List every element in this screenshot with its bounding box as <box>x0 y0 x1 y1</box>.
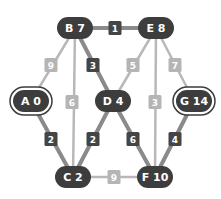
edge-weight-G-F: 4 <box>169 132 182 146</box>
edge-weight-E-D: 5 <box>127 58 140 72</box>
edge-weight-E-G: 7 <box>169 58 182 72</box>
edge-weight-D-F: 6 <box>127 132 140 146</box>
weight-label: 6 <box>130 135 136 145</box>
weight-label: 7 <box>172 61 178 71</box>
node-C[interactable]: C 2 <box>55 166 91 188</box>
node-label: G 14 <box>180 95 209 108</box>
node-label: A 0 <box>21 95 41 108</box>
edge-weight-C-F: 9 <box>108 170 121 184</box>
node-D[interactable]: D 4 <box>95 90 131 112</box>
node-G[interactable]: G 14 <box>173 87 215 115</box>
node-B[interactable]: B 7 <box>57 17 93 39</box>
node-A[interactable]: A 0 <box>10 87 52 115</box>
node-E[interactable]: E 8 <box>138 17 174 39</box>
weight-label: 6 <box>69 98 75 108</box>
edge-weight-B-D: 3 <box>87 58 100 72</box>
weight-label: 2 <box>48 135 54 145</box>
edge-weight-B-A: 9 <box>45 58 58 72</box>
graph-canvas: 196353722649 B 7E 8A 0D 4G 14C 2F 10 <box>0 0 221 199</box>
edge-weight-E-F: 3 <box>149 95 162 109</box>
node-label: B 7 <box>65 22 85 35</box>
weight-label: 3 <box>90 61 96 71</box>
edge-weight-B-C: 6 <box>66 95 79 109</box>
weight-label: 1 <box>112 24 118 34</box>
edge-weight-B-E: 1 <box>109 21 122 35</box>
node-label: E 8 <box>147 22 166 35</box>
node-label: F 10 <box>142 171 169 184</box>
node-label: C 2 <box>63 171 83 184</box>
weight-label: 5 <box>130 61 136 71</box>
edge-weight-D-C: 2 <box>87 132 100 146</box>
weight-label: 9 <box>111 173 117 183</box>
weight-label: 3 <box>152 98 158 108</box>
node-label: D 4 <box>103 95 124 108</box>
weight-label: 9 <box>48 61 54 71</box>
node-F[interactable]: F 10 <box>137 166 173 188</box>
edge-weight-A-C: 2 <box>45 132 58 146</box>
nodes-layer: B 7E 8A 0D 4G 14C 2F 10 <box>10 17 215 188</box>
weight-label: 2 <box>90 135 96 145</box>
weight-label: 4 <box>172 135 178 145</box>
